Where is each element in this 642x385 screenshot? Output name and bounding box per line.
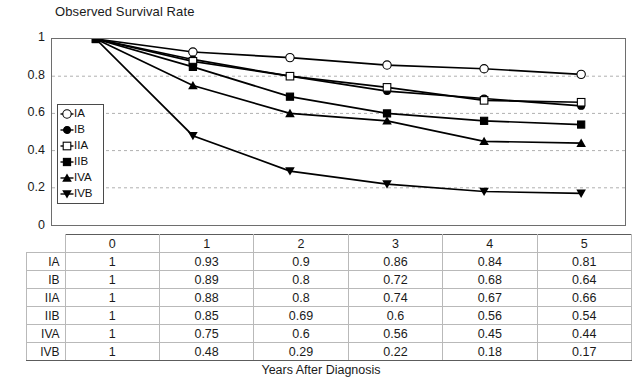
table-cell: 0.22 xyxy=(348,343,442,361)
table-row: IA10.930.90.860.840.81 xyxy=(27,253,632,271)
table-column-header-3: 3 xyxy=(348,235,442,253)
table-column-header-1: 1 xyxy=(159,235,253,253)
table-cell: 1 xyxy=(65,253,159,271)
chart-title: Observed Survival Rate xyxy=(55,4,194,19)
x-axis-label: Years After Diagnosis xyxy=(0,363,642,377)
data-point-open-circle xyxy=(480,65,488,73)
data-point-open-circle xyxy=(63,110,71,118)
table-cell: 0.6 xyxy=(348,307,442,325)
plot-svg xyxy=(52,39,625,225)
table-cell: 0.48 xyxy=(159,343,253,361)
table-cell: 1 xyxy=(65,271,159,289)
data-point-open-circle xyxy=(577,70,585,78)
plot-area xyxy=(51,38,626,226)
table-cell: 0.29 xyxy=(254,343,348,361)
legend-item-label: IVB xyxy=(74,188,93,200)
data-point-filled-square xyxy=(481,117,488,124)
legend-item-label: IB xyxy=(74,124,85,136)
survival-chart-figure: Observed Survival Rate 10.80.60.40.20 IA… xyxy=(0,0,642,385)
table-row-label-ib: IB xyxy=(27,271,66,289)
table-cell: 0.17 xyxy=(537,343,631,361)
data-table: 012345 IA10.930.90.860.840.81IB10.890.80… xyxy=(26,234,632,361)
legend-marker-open-square xyxy=(60,139,74,153)
data-point-filled-circle xyxy=(64,127,71,134)
table-cell: 0.66 xyxy=(537,289,631,307)
table-cell: 0.84 xyxy=(443,253,537,271)
table-cell: 0.9 xyxy=(254,253,348,271)
table-row-label-iib: IIB xyxy=(27,307,66,325)
data-point-filled-square xyxy=(383,110,390,117)
legend-item-ia[interactable]: IA xyxy=(58,106,103,122)
table-cell: 0.72 xyxy=(348,271,442,289)
data-point-filled-square xyxy=(286,93,293,100)
table-header-row: 012345 xyxy=(27,235,632,253)
data-point-open-square xyxy=(286,72,294,80)
table-cell: 0.44 xyxy=(537,325,631,343)
table-cell: 0.68 xyxy=(443,271,537,289)
table-row: IIB10.850.690.60.560.54 xyxy=(27,307,632,325)
table-cell: 0.89 xyxy=(159,271,253,289)
table-cell: 0.85 xyxy=(159,307,253,325)
data-point-open-circle xyxy=(383,61,391,69)
data-point-open-square xyxy=(480,97,488,105)
table-cell: 0.45 xyxy=(443,325,537,343)
table-cell: 0.18 xyxy=(443,343,537,361)
table-corner-cell xyxy=(27,235,66,253)
legend-item-ivb[interactable]: IVB xyxy=(58,186,103,202)
table-row: IVB10.480.290.220.180.17 xyxy=(27,343,632,361)
legend-marker-open-circle xyxy=(60,107,74,121)
table-cell: 0.86 xyxy=(348,253,442,271)
data-point-open-square xyxy=(63,142,71,150)
data-point-open-square xyxy=(577,98,585,106)
legend-item-label: IIB xyxy=(74,156,88,168)
table-cell: 0.8 xyxy=(254,289,348,307)
data-point-filled-triangle-up xyxy=(188,81,198,89)
table-row-label-iva: IVA xyxy=(27,325,66,343)
table-row-label-ivb: IVB xyxy=(27,343,66,361)
data-point-open-square xyxy=(383,84,391,92)
table-cell: 0.56 xyxy=(348,325,442,343)
table-row-label-iia: IIA xyxy=(27,289,66,307)
table-cell: 1 xyxy=(65,325,159,343)
legend-item-iva[interactable]: IVA xyxy=(58,170,103,186)
table-cell: 1 xyxy=(65,343,159,361)
data-point-filled-square xyxy=(189,63,196,70)
legend-item-label: IA xyxy=(74,108,85,120)
series-line-ia xyxy=(96,39,581,74)
table-cell: 0.88 xyxy=(159,289,253,307)
data-point-filled-square xyxy=(578,121,585,128)
table-column-header-2: 2 xyxy=(254,235,348,253)
table-cell: 0.56 xyxy=(443,307,537,325)
table-cell: 1 xyxy=(65,289,159,307)
table-row: IIA10.880.80.740.670.66 xyxy=(27,289,632,307)
table-column-header-0: 0 xyxy=(65,235,159,253)
table-cell: 0.8 xyxy=(254,271,348,289)
y-tick-label: 1 xyxy=(3,30,45,44)
table-row: IB10.890.80.720.680.64 xyxy=(27,271,632,289)
legend-marker-filled-triangle-down xyxy=(60,187,74,201)
y-tick-label: 0.8 xyxy=(3,68,45,82)
legend-marker-filled-square xyxy=(60,155,74,169)
table-cell: 0.69 xyxy=(254,307,348,325)
table-cell: 0.6 xyxy=(254,325,348,343)
table-header: 012345 xyxy=(27,235,632,253)
table-column-header-4: 4 xyxy=(443,235,537,253)
legend-marker-filled-circle xyxy=(60,123,74,137)
data-point-filled-square xyxy=(92,39,99,43)
y-tick-label: 0.4 xyxy=(3,143,45,157)
table-row-label-ia: IA xyxy=(27,253,66,271)
legend-item-iia[interactable]: IIA xyxy=(58,138,103,154)
data-point-open-circle xyxy=(189,48,197,56)
table-cell: 0.75 xyxy=(159,325,253,343)
y-tick-label: 0.6 xyxy=(3,105,45,119)
legend-item-iib[interactable]: IIB xyxy=(58,154,103,170)
table-cell: 0.93 xyxy=(159,253,253,271)
data-point-open-circle xyxy=(286,53,294,61)
y-tick-label: 0 xyxy=(3,218,45,232)
data-point-filled-square xyxy=(63,158,70,165)
legend-item-ib[interactable]: IB xyxy=(58,122,103,138)
legend-item-label: IVA xyxy=(74,172,92,184)
chart-legend: IAIBIIAIIBIVAIVB xyxy=(57,104,104,204)
y-tick-label: 0.2 xyxy=(3,180,45,194)
table-column-header-5: 5 xyxy=(537,235,631,253)
